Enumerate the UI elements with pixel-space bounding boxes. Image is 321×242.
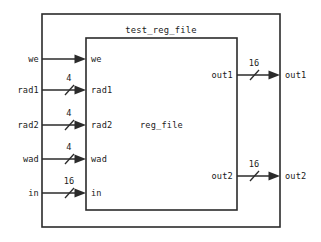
bus-width-label-rad1: 4 bbox=[66, 73, 71, 83]
port-label-rad2: rad2 bbox=[91, 120, 113, 130]
external-label-rad2: rad2 bbox=[18, 120, 40, 130]
port-label-rad1: rad1 bbox=[91, 85, 113, 95]
port-label-out2: out2 bbox=[212, 171, 234, 181]
external-label-we: we bbox=[28, 54, 39, 64]
outer-module-title: test_reg_file bbox=[125, 25, 196, 35]
bus-width-label-wad: 4 bbox=[66, 142, 71, 152]
bus-width-label-rad2: 4 bbox=[66, 108, 71, 118]
port-label-out1: out1 bbox=[212, 70, 234, 80]
external-label-wad: wad bbox=[23, 154, 39, 164]
external-label-out2: out2 bbox=[285, 171, 307, 181]
diagram-svg: test_reg_file reg_file we we rad1 4 rad1… bbox=[0, 0, 321, 242]
inner-module-label: reg_file bbox=[140, 120, 183, 130]
external-label-rad1: rad1 bbox=[18, 85, 40, 95]
bus-width-label-in: 16 bbox=[64, 176, 75, 186]
port-label-in: in bbox=[91, 188, 102, 198]
external-label-out1: out1 bbox=[285, 70, 307, 80]
bus-width-label-out1: 16 bbox=[249, 58, 260, 68]
block-diagram-canvas: test_reg_file reg_file we we rad1 4 rad1… bbox=[0, 0, 321, 242]
port-label-wad: wad bbox=[91, 154, 107, 164]
port-label-we: we bbox=[91, 54, 102, 64]
bus-width-label-out2: 16 bbox=[249, 159, 260, 169]
external-label-in: in bbox=[28, 188, 39, 198]
